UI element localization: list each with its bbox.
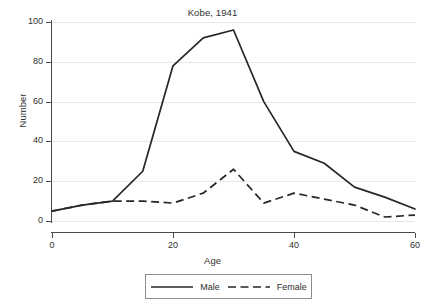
chart-figure: Kobe, 1941 020406080100 Number 0204060 A… — [0, 0, 425, 308]
x-tick-mark — [415, 233, 416, 238]
y-axis-title: Number — [17, 76, 28, 146]
y-tick-label: 0 — [15, 215, 43, 225]
x-tick-mark — [173, 233, 174, 238]
series-line-female — [52, 169, 415, 217]
x-tick-label: 0 — [37, 240, 67, 250]
y-tick-mark — [46, 102, 51, 103]
x-axis-line — [51, 232, 415, 233]
legend-swatch-male-icon — [150, 283, 194, 291]
legend-item-male[interactable]: Male — [150, 282, 220, 292]
x-tick-mark — [52, 233, 53, 238]
series-line-male — [52, 30, 415, 211]
x-tick-label: 40 — [279, 240, 309, 250]
legend-item-female[interactable]: Female — [227, 282, 307, 292]
y-tick-label: 20 — [15, 175, 43, 185]
chart-legend: Male Female — [145, 274, 312, 299]
legend-label-female: Female — [277, 282, 307, 292]
x-tick-mark — [294, 233, 295, 238]
y-tick-mark — [46, 141, 51, 142]
gridline — [52, 221, 415, 222]
x-tick-label: 60 — [400, 240, 425, 250]
legend-swatch-female-icon — [227, 283, 271, 291]
y-tick-mark — [46, 181, 51, 182]
y-tick-mark — [46, 221, 51, 222]
y-tick-mark — [46, 22, 51, 23]
y-tick-label: 100 — [15, 16, 43, 26]
legend-label-male: Male — [200, 282, 220, 292]
series-lines — [52, 22, 415, 221]
x-axis-title: Age — [0, 255, 425, 266]
plot-area — [52, 22, 415, 221]
x-tick-label: 20 — [158, 240, 188, 250]
y-tick-mark — [46, 62, 51, 63]
y-tick-label: 80 — [15, 56, 43, 66]
chart-title: Kobe, 1941 — [0, 7, 425, 18]
